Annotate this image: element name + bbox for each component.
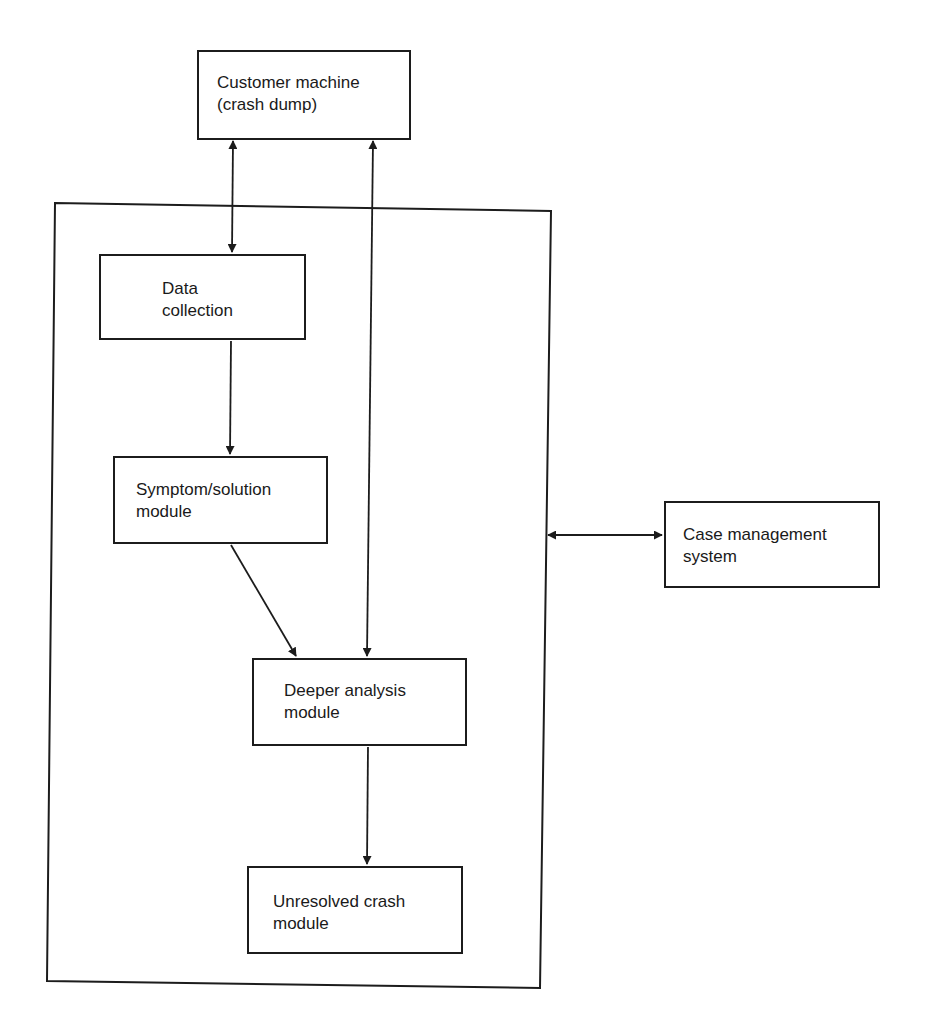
edge-data-collection-symptom	[230, 341, 231, 454]
node-label: Data collection	[162, 278, 233, 322]
edge-customer-deeper-analysis	[367, 141, 373, 656]
node-label: Unresolved crash module	[273, 891, 405, 935]
node-data-collection: Data collection	[99, 254, 306, 340]
node-unresolved-crash: Unresolved crash module	[247, 866, 463, 954]
node-deeper-analysis: Deeper analysis module	[252, 658, 467, 746]
edge-deeper-unresolved	[367, 747, 368, 864]
edge-symptom-deeper-analysis	[231, 545, 296, 656]
node-customer-machine: Customer machine (crash dump)	[197, 50, 411, 140]
node-case-management: Case management system	[664, 501, 880, 588]
node-label: Deeper analysis module	[284, 680, 406, 724]
edge-customer-data-collection	[232, 141, 233, 252]
node-label: Case management system	[683, 524, 827, 568]
node-label: Symptom/solution module	[136, 479, 271, 523]
node-label: Customer machine (crash dump)	[217, 72, 360, 116]
node-symptom-solution: Symptom/solution module	[113, 456, 328, 544]
